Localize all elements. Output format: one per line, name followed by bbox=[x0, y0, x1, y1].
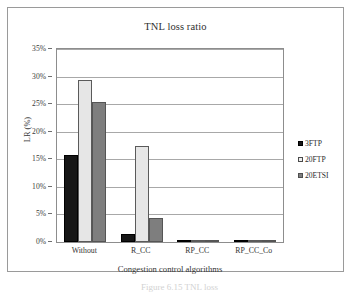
bar bbox=[191, 240, 205, 242]
legend-label: 20ETSI bbox=[305, 171, 329, 180]
bar bbox=[92, 102, 106, 242]
x-axis-tick-label: Without bbox=[72, 246, 97, 255]
legend-label: 20FTP bbox=[305, 155, 326, 164]
y-axis-tick-mark bbox=[48, 131, 52, 132]
plot-area bbox=[56, 48, 284, 243]
legend-item: 20ETSI bbox=[298, 171, 329, 180]
x-axis-title: Congestion control algorithms bbox=[56, 264, 284, 274]
bar bbox=[205, 240, 219, 242]
bar bbox=[78, 80, 92, 242]
y-axis-tick-label: 20% bbox=[32, 126, 46, 135]
bar-group bbox=[227, 49, 284, 242]
bar-group bbox=[114, 49, 171, 242]
y-axis-tick-mark bbox=[48, 158, 52, 159]
bar-group bbox=[170, 49, 227, 242]
y-axis-tick-mark bbox=[48, 186, 52, 187]
legend-item: 20FTP bbox=[298, 155, 329, 164]
legend-swatch-icon bbox=[298, 157, 303, 162]
bar bbox=[64, 155, 78, 242]
bar bbox=[234, 240, 248, 242]
legend-swatch-icon bbox=[298, 141, 303, 146]
y-axis-tick-label: 25% bbox=[32, 99, 46, 108]
x-axis-tick-label: R_CC bbox=[131, 246, 151, 255]
y-axis-tick-mark bbox=[48, 48, 52, 49]
y-axis-tick-label: 30% bbox=[32, 71, 46, 80]
y-axis-tick-label: 5% bbox=[36, 209, 46, 218]
x-axis-tick-labels: WithoutR_CCRP_CCRP_CC_Co bbox=[56, 246, 284, 260]
y-axis-tick-labels: 0%5%10%15%20%25%30%35% bbox=[8, 48, 52, 243]
bar bbox=[177, 240, 191, 242]
bar-group bbox=[57, 49, 114, 242]
chart-legend: 3FTP20FTP20ETSI bbox=[298, 139, 329, 180]
y-axis-tick-label: 10% bbox=[32, 181, 46, 190]
figure-caption: Figure 6.15 TNL loss bbox=[0, 282, 359, 295]
y-axis-tick-mark bbox=[48, 103, 52, 104]
chart-title: TNL loss ratio bbox=[8, 21, 343, 32]
legend-label: 3FTP bbox=[305, 139, 322, 148]
x-axis-tick-label: RP_CC bbox=[185, 246, 209, 255]
legend-swatch-icon bbox=[298, 173, 303, 178]
bar bbox=[262, 240, 276, 242]
bar bbox=[121, 234, 135, 242]
bar bbox=[135, 146, 149, 242]
y-axis-tick-label: 15% bbox=[32, 154, 46, 163]
y-axis-tick-mark bbox=[48, 213, 52, 214]
bar bbox=[149, 218, 163, 242]
y-axis-tick-mark bbox=[48, 241, 52, 242]
bar bbox=[248, 240, 262, 242]
y-axis-tick-label: 0% bbox=[36, 237, 46, 246]
figure-frame: TNL loss ratio LR (%) 0%5%10%15%20%25%30… bbox=[7, 7, 344, 272]
y-axis-tick-mark bbox=[48, 76, 52, 77]
y-axis-tick-label: 35% bbox=[32, 44, 46, 53]
legend-item: 3FTP bbox=[298, 139, 329, 148]
x-axis-tick-label: RP_CC_Co bbox=[235, 246, 272, 255]
